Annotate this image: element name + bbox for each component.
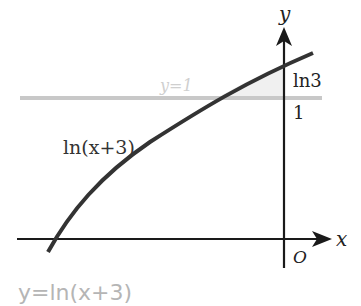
line-y1-label: y=1 xyxy=(159,76,193,95)
curve-label: ln(x+3) xyxy=(63,136,135,158)
origin-label: O xyxy=(293,247,307,267)
x-axis-label: x xyxy=(336,227,347,251)
caption: y=ln(x+3) xyxy=(18,280,132,305)
y-axis-label: y xyxy=(278,2,291,26)
tick-label-1: 1 xyxy=(293,102,304,123)
tick-label-ln3: ln3 xyxy=(293,70,322,91)
graph-canvas: y x O ln3 1 y=1 ln(x+3) y=ln(x+3) xyxy=(0,0,361,306)
